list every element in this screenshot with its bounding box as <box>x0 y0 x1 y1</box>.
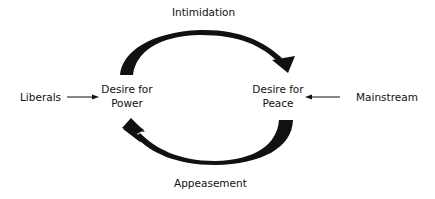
desire-for-peace-line1: Desire for <box>243 82 313 96</box>
intimidation-arrow-body <box>120 30 282 75</box>
desire-for-power-line2: Power <box>92 96 162 110</box>
appeasement-arrow <box>122 118 293 165</box>
appeasement-arrow-body <box>136 120 293 165</box>
mainstream-label: Mainstream <box>356 91 418 104</box>
desire-for-peace-line2: Peace <box>243 96 313 110</box>
liberals-label: Liberals <box>20 91 61 104</box>
desire-for-power-node: Desire for Power <box>92 82 162 110</box>
intimidation-arrow <box>120 30 295 75</box>
cycle-diagram: Intimidation Appeasement Liberals Mainst… <box>0 0 435 199</box>
desire-for-peace-node: Desire for Peace <box>243 82 313 110</box>
appeasement-label: Appeasement <box>174 177 247 190</box>
desire-for-power-line1: Desire for <box>92 82 162 96</box>
intimidation-label: Intimidation <box>172 6 235 19</box>
